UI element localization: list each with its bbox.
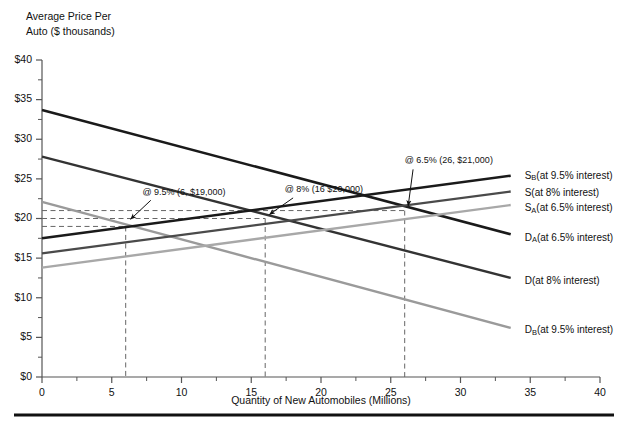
y-tick-label: $20 [14, 211, 32, 223]
equilibrium-arrow-eq-9-5 [131, 200, 151, 219]
series-label: S(at 8% interest) [525, 187, 599, 198]
y-tick-label: $25 [14, 172, 32, 184]
x-tick-label: 0 [39, 386, 45, 398]
y-axis-title-line2: Auto ($ thousands) [26, 25, 115, 37]
x-tick-label: 5 [109, 386, 115, 398]
y-tick-label: $10 [14, 291, 32, 303]
series-line-demand-2 [42, 202, 511, 328]
equilibrium-annotations: @ 9.5% (6, $19,000)@ 8% (16 $20,000)@ 6.… [131, 155, 493, 219]
series-labels: DA(at 6.5% interest)D(at 8% interest)DB(… [525, 169, 613, 336]
y-tick-label: $40 [14, 53, 32, 65]
series-label: SB(at 9.5% interest) [525, 169, 613, 182]
y-axis-title-line1: Average Price Per [26, 10, 112, 22]
series-line-supply-3 [42, 176, 511, 239]
x-tick-label: 40 [594, 386, 606, 398]
chart-container: $0$5$10$15$20$25$30$35$40 05101520253035… [0, 0, 628, 426]
y-axis-ticks: $0$5$10$15$20$25$30$35$40 [14, 53, 42, 382]
x-axis-title: Quantity of New Automobiles (Millions) [231, 394, 411, 406]
series-label: D(at 8% interest) [525, 275, 600, 286]
x-tick-label: 30 [455, 386, 467, 398]
y-tick-label: $5 [20, 330, 32, 342]
equilibrium-label-eq-6-5: @ 6.5% (26, $21,000) [405, 155, 493, 165]
y-tick-label: $0 [20, 370, 32, 382]
y-tick-label: $15 [14, 251, 32, 263]
y-tick-label: $30 [14, 132, 32, 144]
series-line-supply-4 [42, 192, 511, 254]
supply-demand-chart: $0$5$10$15$20$25$30$35$40 05101520253035… [0, 0, 628, 426]
x-tick-label: 35 [524, 386, 536, 398]
x-tick-label: 10 [176, 386, 188, 398]
series-label: DB(at 9.5% interest) [525, 324, 613, 337]
series-label: DA(at 6.5% interest) [525, 231, 613, 244]
series-line-demand-1 [42, 157, 511, 278]
equilibrium-label-eq-8: @ 8% (16 $20,000) [285, 184, 363, 194]
y-tick-label: $35 [14, 92, 32, 104]
series-line-supply-5 [42, 205, 511, 268]
series-line-demand-0 [42, 110, 511, 234]
series-label: SA(at 6.5% interest) [525, 202, 613, 215]
equilibrium-label-eq-9-5: @ 9.5% (6, $19,000) [142, 187, 225, 197]
